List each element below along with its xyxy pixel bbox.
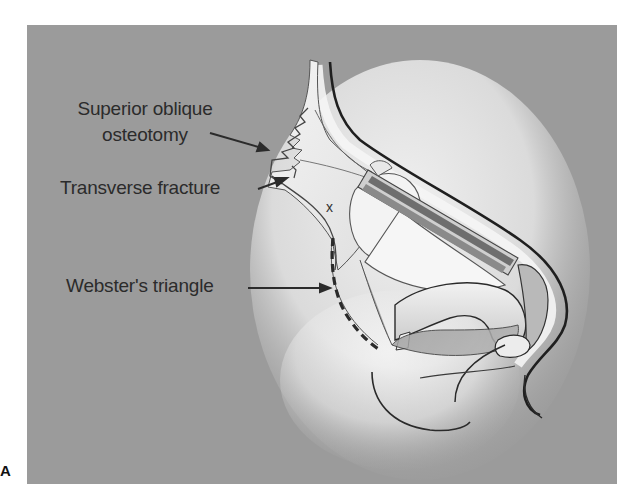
x-marker: x (326, 196, 333, 218)
label-websters-triangle: Webster's triangle (66, 275, 214, 297)
panel-letter: A (0, 462, 11, 479)
label-superior-oblique-osteotomy: Superior oblique osteotomy (64, 98, 226, 146)
label-superior-oblique-line1: Superior oblique (64, 98, 226, 120)
label-superior-oblique-line2: osteotomy (64, 124, 226, 146)
label-transverse-fracture: Transverse fracture (60, 177, 220, 199)
figure: Superior oblique osteotomy Transverse fr… (0, 0, 639, 502)
nose-illustration (0, 0, 639, 502)
